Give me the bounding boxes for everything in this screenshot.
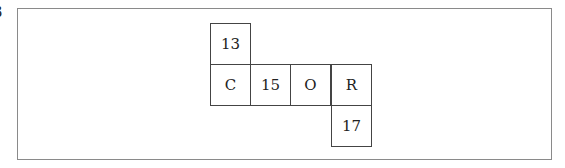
clipped-question-number: 3 — [0, 3, 3, 21]
grid-cell-c: C — [210, 64, 251, 106]
grid-cell-o: O — [290, 64, 331, 106]
grid-cell-13: 13 — [210, 23, 251, 65]
grid-cell-15: 15 — [250, 64, 291, 106]
grid-cell-r: R — [331, 64, 372, 106]
grid-cell-17: 17 — [331, 105, 372, 147]
